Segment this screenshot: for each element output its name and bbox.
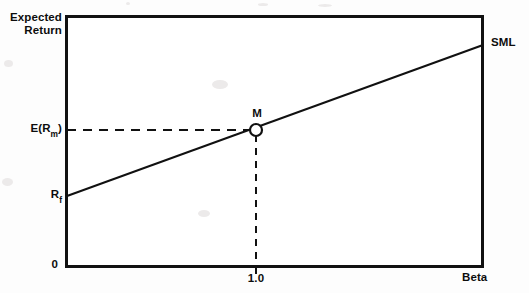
erm-close: ) [58, 122, 62, 134]
sml-figure: Expected Return E(Rm) Rf 0 1.0 Beta SML … [0, 0, 529, 293]
y-axis-title: Expected Return [2, 11, 62, 37]
market-portfolio-label: M [244, 107, 270, 120]
y-axis-title-line2: Return [24, 24, 62, 36]
market-portfolio-point [250, 124, 262, 136]
y-axis-title-line1: Expected [10, 11, 62, 23]
origin-label: 0 [32, 258, 58, 271]
sml-plot-svg [0, 0, 529, 293]
erm-main: E(R [31, 122, 51, 134]
y-tick-label-risk-free-rate: Rf [14, 188, 62, 204]
x-tick-label-beta-one: 1.0 [236, 272, 276, 285]
plot-frame [67, 17, 483, 267]
sml-line-label: SML [491, 36, 516, 49]
y-tick-label-expected-market-return: E(Rm) [12, 122, 62, 138]
rf-main: R [51, 188, 59, 200]
rf-subscript: f [59, 195, 62, 205]
erm-subscript: m [51, 129, 58, 139]
x-axis-title: Beta [462, 271, 522, 284]
